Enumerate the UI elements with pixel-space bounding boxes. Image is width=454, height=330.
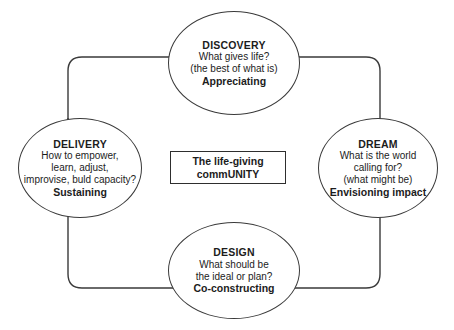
- node-discovery-title: DISCOVERY: [202, 39, 265, 51]
- node-delivery-title: DELIVERY: [53, 138, 107, 150]
- node-design-role: Co-constructing: [193, 282, 274, 294]
- node-design-title: DESIGN: [213, 246, 254, 258]
- node-dream-question-line-3: (what might be): [344, 174, 413, 186]
- center-label-line-1: The life-giving: [192, 155, 263, 168]
- center-label-line-2: commUNITY: [197, 168, 259, 181]
- node-design-question-line-1: What should be: [199, 259, 269, 271]
- node-dream-role: Envisioning impact: [330, 186, 426, 198]
- node-dream-question-line-2: calling for?: [354, 162, 402, 174]
- node-dream-question-line-1: What is the world: [340, 150, 417, 162]
- node-design[interactable]: DESIGN What should be the ideal or plan?…: [168, 222, 300, 319]
- node-delivery-role: Sustaining: [53, 186, 107, 198]
- center-label-box: The life-giving commUNITY: [170, 151, 286, 184]
- node-design-question-line-2: the ideal or plan?: [196, 271, 273, 283]
- node-delivery[interactable]: DELIVERY How to empower, learn, adjust, …: [18, 118, 142, 218]
- node-discovery-question-line-1: What gives life?: [199, 51, 270, 63]
- node-delivery-question-line-3: improvise, buld capacity?: [24, 174, 136, 186]
- node-dream-title: DREAM: [358, 138, 398, 150]
- node-discovery[interactable]: DISCOVERY What gives life? (the best of …: [168, 11, 300, 115]
- appreciative-inquiry-cycle-diagram: DISCOVERY What gives life? (the best of …: [0, 0, 454, 330]
- node-discovery-question-line-2: (the best of what is): [190, 63, 277, 75]
- node-dream[interactable]: DREAM What is the world calling for? (wh…: [318, 118, 438, 218]
- node-discovery-role: Appreciating: [202, 75, 266, 87]
- node-delivery-question-line-1: How to empower,: [41, 150, 118, 162]
- node-delivery-question-line-2: learn, adjust,: [51, 162, 108, 174]
